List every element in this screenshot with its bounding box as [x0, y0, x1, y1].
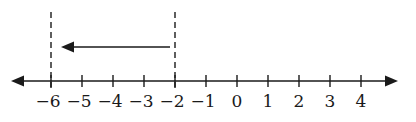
- left-arrowhead-icon: [61, 42, 74, 53]
- tick-label: −2: [159, 91, 184, 111]
- tick-label: −6: [35, 91, 60, 111]
- axis-right-arrow-icon: [385, 76, 398, 87]
- number-line-svg: −6−5−4−3−2−101234: [0, 0, 416, 122]
- tick-label: −4: [97, 91, 122, 111]
- tick-label: 0: [232, 91, 243, 111]
- tick-label: −1: [190, 91, 215, 111]
- tick-label: −3: [128, 91, 153, 111]
- tick-label: 4: [356, 91, 367, 111]
- axis-labels: −6−5−4−3−2−101234: [35, 91, 366, 111]
- tick-label: −5: [66, 91, 91, 111]
- tick-label: 1: [263, 91, 274, 111]
- tick-label: 3: [325, 91, 336, 111]
- tick-label: 2: [294, 91, 305, 111]
- axis-left-arrow-icon: [11, 76, 24, 87]
- number-line-diagram: −6−5−4−3−2−101234: [0, 0, 416, 122]
- displacement-arrow: [61, 42, 170, 53]
